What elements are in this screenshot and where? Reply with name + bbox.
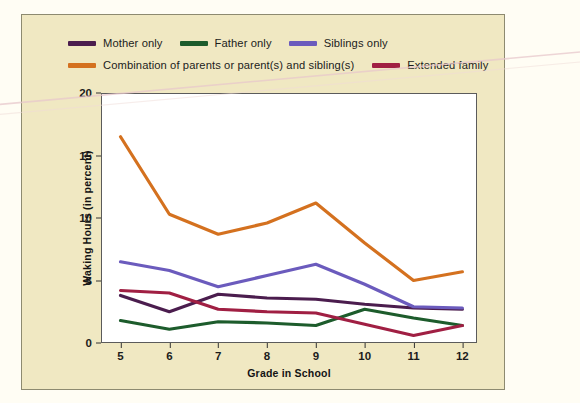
x-tick-8: 8 (264, 343, 270, 362)
x-tick-10: 10 (358, 343, 371, 362)
legend-item-combination: Combination of parents or parent(s) and … (68, 59, 354, 71)
legend-swatch-siblings-only (289, 41, 317, 46)
x-tick-12: 12 (456, 343, 469, 362)
y-tick-0: 0 (86, 337, 101, 349)
y-tick-20: 20 (79, 87, 101, 99)
legend-swatch-father-only (180, 41, 208, 46)
legend-row-1: Mother only Father only Siblings only (68, 33, 498, 53)
x-tick-5: 5 (117, 343, 123, 362)
series-lines (101, 93, 477, 343)
legend-swatch-mother-only (68, 41, 96, 46)
legend-label-combination: Combination of parents or parent(s) and … (103, 59, 354, 71)
legend-item-extended-family: Extended family (372, 59, 488, 71)
legend-item-father-only: Father only (180, 37, 272, 49)
x-axis-label: Grade in School (247, 367, 331, 379)
legend-label-siblings-only: Siblings only (324, 37, 388, 49)
x-tick-6: 6 (166, 343, 172, 362)
x-tick-9: 9 (313, 343, 319, 362)
legend-swatch-combination (68, 63, 96, 68)
series-line-siblings-only (121, 262, 463, 308)
chart-figure: Mother only Father only Siblings only Co… (21, 14, 505, 390)
plot-wrapper: 05101520 56789101112 Waking Hours (in pe… (101, 93, 477, 343)
x-tick-11: 11 (407, 343, 419, 362)
series-line-mother-only (121, 294, 463, 312)
legend-swatch-extended-family (372, 63, 400, 68)
legend-item-mother-only: Mother only (68, 37, 163, 49)
series-line-combination-of-parents-or-parent-s-and-sibling-s (121, 137, 463, 281)
x-tick-7: 7 (215, 343, 221, 362)
legend-item-siblings-only: Siblings only (289, 37, 388, 49)
y-axis-label: Waking Hours (in percent) (81, 150, 93, 285)
legend-row-2: Combination of parents or parent(s) and … (68, 55, 498, 75)
chart-legend: Mother only Father only Siblings only Co… (68, 33, 498, 75)
legend-label-extended-family: Extended family (407, 59, 488, 71)
legend-label-father-only: Father only (215, 37, 272, 49)
legend-label-mother-only: Mother only (103, 37, 163, 49)
